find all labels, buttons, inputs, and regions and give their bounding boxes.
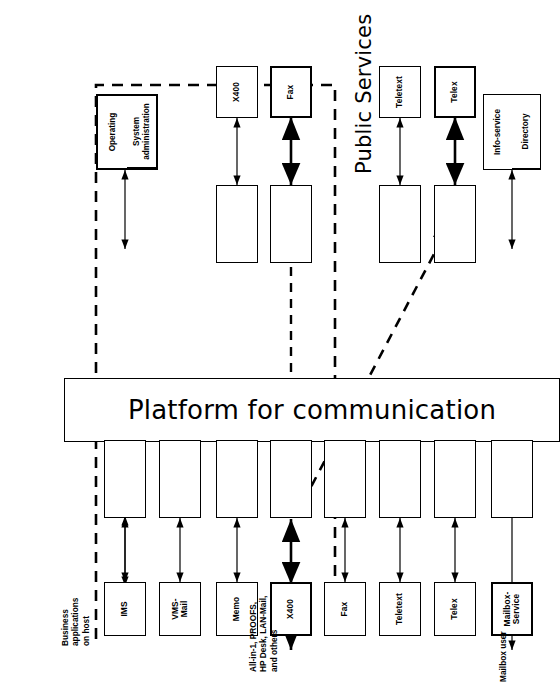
label-office-systems: All-in-1, PROOFS, HP Desk, LAN-Mail, and… [248,596,279,672]
interface-box [216,185,258,263]
interface-box [104,440,146,518]
service-label: Teletext [395,76,404,108]
service-box-telex-right[interactable]: Telex [434,66,476,118]
service-box-teletext-right[interactable]: Teletext [379,66,421,118]
left-connectors [125,507,180,586]
label-mailbox-user: Mailbox user [498,631,508,682]
interface-box [270,185,312,263]
platform-title: Platform for communication [128,395,496,425]
service-label: Telex [450,81,459,102]
interface-box [434,440,476,518]
interface-box [379,440,421,518]
admin-cell-system-administration: System administration [127,96,156,168]
device-box-vms-mail[interactable]: VMS- Mail [159,582,201,636]
device-label: Mailbox- Service [503,592,521,627]
service-label: X400 [232,82,241,102]
label-business-applications: Business applications on host [60,598,91,646]
interface-box [324,440,366,518]
service-box-fax-right[interactable]: Fax [270,66,312,118]
label-public-services: Public Services [352,14,376,174]
service-box-x400-right[interactable]: X400 [216,66,258,118]
device-label: X400 [286,599,295,619]
interface-box [434,185,476,263]
info-cell-directory: Directory [512,95,540,169]
device-label: Teletext [395,593,404,625]
device-box-fax-left[interactable]: Fax [324,582,366,636]
device-label: IMS [120,601,129,616]
device-label: VMS- Mail [171,598,189,619]
device-label: Memo [232,597,241,622]
system-administration-box[interactable]: Operating System administration [96,94,158,170]
admin-cell-operating: Operating [98,96,127,168]
service-label: Fax [286,85,295,100]
device-label: Fax [340,602,349,617]
interface-box [159,440,201,518]
device-box-telex-left[interactable]: Telex [434,582,476,636]
device-label: Telex [450,598,459,619]
device-box-mailbox-service[interactable]: Mailbox- Service [491,582,533,636]
interface-box [379,185,421,263]
interface-box [216,440,258,518]
info-service-box[interactable]: Info-service Directory [483,94,541,170]
info-cell-info-service: Info-service [484,95,512,169]
device-box-teletext-left[interactable]: Teletext [379,582,421,636]
interface-box [270,440,312,518]
device-box-ims[interactable]: IMS [104,582,146,636]
interface-box [491,440,533,518]
